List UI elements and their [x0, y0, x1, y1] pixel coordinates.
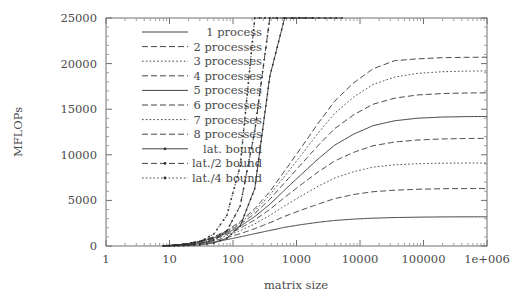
legend-entry: 4 processes [142, 69, 262, 83]
y-tick-label: 0 [90, 239, 97, 253]
legend-marker [164, 177, 167, 180]
y-tick-label: 25000 [60, 11, 97, 25]
x-tick-label: 1 [102, 252, 109, 266]
legend-entry: 5 processes [142, 83, 262, 97]
legend-label: 4 processes [193, 69, 262, 83]
legend-label: lat. bound [203, 142, 263, 156]
x-tick-label: 10000 [342, 252, 379, 266]
legend-entry: 8 processes [142, 127, 262, 141]
legend-label: 6 processes [193, 98, 262, 112]
y-tick-label: 15000 [60, 102, 97, 116]
legend-entry: 1 process [142, 25, 262, 39]
legend-label: 3 processes [193, 54, 262, 68]
x-tick-label: 10 [162, 252, 177, 266]
legend-entry: 7 processes [142, 113, 262, 127]
legend-entry: lat./4 bound [142, 171, 263, 185]
legend-label: 1 process [206, 25, 262, 39]
legend-entry: 6 processes [142, 98, 262, 112]
y-tick-label: 10000 [60, 148, 97, 162]
legend-label: 7 processes [193, 113, 262, 127]
y-tick-label: 20000 [60, 57, 97, 71]
legend-marker [164, 147, 167, 150]
x-tick-label: 1000 [282, 252, 311, 266]
y-axis-tick-labels: 0500010000150002000025000 [60, 11, 97, 253]
chart-figure: 1101001000100001000001e+006 050001000015… [0, 0, 525, 304]
legend-entry: lat./2 bound [142, 156, 263, 170]
legend-entry: 3 processes [142, 54, 262, 68]
x-tick-label: 100000 [402, 252, 446, 266]
x-tick-label: 1e+006 [464, 252, 510, 266]
chart-legend: 1 process2 processes3 processes4 process… [142, 25, 263, 185]
legend-label: lat./2 bound [192, 156, 263, 170]
legend-marker [164, 162, 167, 165]
x-tick-label: 100 [222, 252, 244, 266]
y-tick-label: 5000 [68, 193, 97, 207]
legend-label: 8 processes [193, 127, 262, 141]
chart-plot-area: 1101001000100001000001e+006 050001000015… [0, 0, 525, 304]
legend-label: lat./4 bound [192, 171, 263, 185]
x-axis-title: matrix size [264, 278, 328, 292]
y-axis-title: MFLOPs [11, 107, 25, 157]
legend-entry: 2 processes [142, 40, 262, 54]
legend-entry: lat. bound [142, 142, 263, 156]
legend-label: 2 processes [193, 40, 262, 54]
legend-label: 5 processes [193, 83, 262, 97]
x-axis-tick-labels: 1101001000100001000001e+006 [102, 252, 510, 266]
